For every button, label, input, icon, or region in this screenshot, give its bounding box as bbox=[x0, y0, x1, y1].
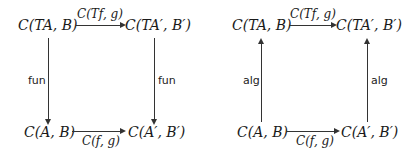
arrow-right-vertical bbox=[367, 44, 368, 122]
arrow-right-vertical bbox=[154, 38, 155, 120]
arrow-top bbox=[289, 25, 333, 26]
node-bottom-left: C(A, B) bbox=[24, 124, 75, 140]
arrow-bottom bbox=[286, 131, 336, 132]
node-top-right: C(TA′, B′) bbox=[125, 17, 191, 33]
edge-label-top: C(Tf, g) bbox=[77, 8, 123, 21]
edge-label-right: alg bbox=[371, 75, 388, 87]
arrow-left-vertical bbox=[48, 38, 49, 120]
fun-commutative-square: C(TA, B) C(Tf, g) C(TA′, B′) fun fun C(A… bbox=[0, 0, 206, 154]
arrow-top bbox=[76, 25, 122, 26]
edge-label-left: alg bbox=[243, 75, 260, 87]
node-bottom-left: C(A, B) bbox=[237, 124, 288, 140]
edge-label-top: C(Tf, g) bbox=[290, 8, 336, 21]
node-bottom-right: C(A′, B′) bbox=[341, 124, 398, 140]
edge-label-bottom: C(f, g) bbox=[296, 135, 334, 148]
node-top-right: C(TA′, B′) bbox=[336, 17, 402, 33]
edge-label-bottom: C(f, g) bbox=[82, 135, 120, 148]
arrowhead-up-icon bbox=[364, 38, 370, 44]
edge-label-right: fun bbox=[158, 75, 176, 87]
arrow-left-vertical bbox=[261, 44, 262, 122]
arrowhead-up-icon bbox=[258, 38, 264, 44]
arrowhead-right-icon bbox=[120, 128, 126, 134]
edge-label-left: fun bbox=[28, 75, 46, 87]
arrowhead-right-icon bbox=[334, 128, 340, 134]
alg-commutative-square: C(TA, B) C(Tf, g) C(TA′, B′) alg alg C(A… bbox=[210, 0, 413, 154]
arrow-bottom bbox=[72, 131, 122, 132]
node-top-left: C(TA, B) bbox=[232, 17, 292, 33]
node-top-left: C(TA, B) bbox=[18, 17, 78, 33]
node-bottom-right: C(A′, B′) bbox=[128, 124, 185, 140]
